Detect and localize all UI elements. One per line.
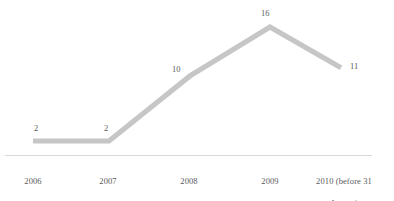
series-line (33, 27, 341, 141)
line-chart: 2 2 10 16 11 2006 2007 2008 2009 2010 (b… (0, 0, 394, 201)
x-tick-label-2006: 2006 (2, 165, 64, 187)
x-tick-label-2008: 2008 (158, 165, 220, 187)
data-label-2007: 2 (104, 124, 108, 133)
data-label-2010: 11 (350, 62, 358, 71)
x-tick-label-2007: 2007 (77, 165, 139, 187)
x-tick-label-2010: 2010 (before 31 August) (296, 165, 392, 201)
x-tick-2009-line1: 2009 (261, 176, 278, 186)
x-tick-2007-line1: 2007 (99, 176, 116, 186)
data-label-2008: 10 (172, 65, 181, 74)
data-label-2006: 2 (34, 124, 38, 133)
x-tick-2010-line1: 2010 (before 31 (316, 176, 372, 186)
data-label-2009: 16 (261, 9, 270, 18)
x-tick-2010-line2: August) (330, 198, 358, 201)
x-tick-2006-line1: 2006 (24, 176, 41, 186)
x-tick-2008-line1: 2008 (180, 176, 197, 186)
x-tick-label-2009: 2009 (239, 165, 301, 187)
